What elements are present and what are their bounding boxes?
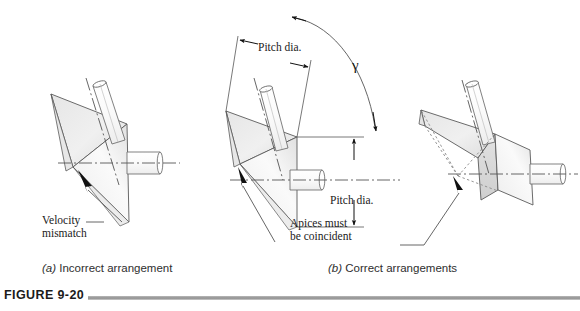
pitch-dia-top-arrow-left [240, 40, 258, 44]
gamma-arc [296, 18, 375, 127]
pitch-dia-right-label: Pitch dia. [330, 194, 374, 206]
assembly-right-correct [400, 80, 578, 245]
caption-a-text: Incorrect arrangement [59, 262, 172, 274]
pitch-dia-top-ext-left [226, 36, 238, 111]
caption-b-text: Correct arrangements [345, 262, 457, 274]
caption-b-marker: (b) [328, 262, 342, 274]
assembly-left-incorrect [51, 78, 180, 226]
gamma-arrow-end [373, 112, 376, 131]
right-apex-leader [400, 193, 459, 245]
caption-a: (a) Incorrect arrangement [42, 262, 172, 274]
caption-a-marker: (a) [42, 262, 56, 274]
pitch-dia-top-label: Pitch dia. [258, 41, 302, 53]
right-apex-arrowhead [453, 176, 463, 196]
caption-b: (b) Correct arrangements [328, 262, 457, 274]
apices-label-line2: be coincident [290, 230, 352, 242]
gamma-label: γ [351, 57, 359, 73]
shaft-angle-gamma: γ [292, 17, 376, 131]
pitch-dia-top-ext-right [297, 60, 311, 137]
right-lower-frustum-face [495, 134, 533, 205]
pitch-dia-top-arrow-right [290, 63, 308, 67]
apices-label-line1: Apices must [290, 217, 348, 230]
velocity-mismatch-label-line1: Velocity [42, 214, 81, 227]
figure-horizontal-rule [88, 296, 580, 300]
gamma-arrow-start [292, 17, 306, 21]
figure-number-label: FIGURE 9-20 [4, 288, 84, 302]
figure-page: Velocity mismatch [0, 0, 580, 311]
velocity-mismatch-label-line2: mismatch [42, 227, 87, 239]
